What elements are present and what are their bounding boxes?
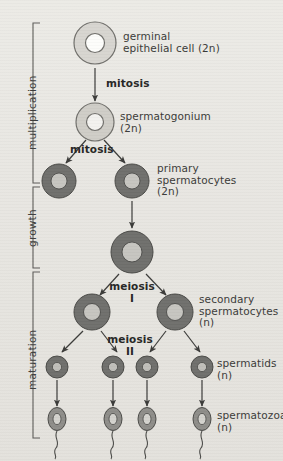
label-meiosis-1: meiosis I [106, 281, 158, 304]
label-germinal-epithelial-cell: germinal epithelial cell (2n) [123, 31, 220, 54]
label-primary-spermatocytes: primary spermatocytes (2n) [157, 163, 236, 198]
label-spermatogonium: spermatogonium (2n) [120, 111, 211, 134]
cell-spermatozoon-4 [193, 408, 211, 460]
cell-spermatozoon-3 [138, 408, 156, 460]
phase-label-multiplication: multiplication [26, 75, 38, 150]
label-mitosis-1: mitosis [106, 78, 150, 90]
cell-spermatogonium [76, 103, 114, 141]
label-mitosis-2: mitosis [70, 144, 114, 156]
phase-label-maturation: maturation [26, 330, 38, 390]
cell-primary-spermatocyte-left [42, 164, 76, 198]
cell-secondary-spermatocyte-right [157, 294, 193, 330]
label-secondary-spermatocytes: secondary spermatocytes (n) [199, 294, 278, 329]
label-meiosis-2: meiosis II [104, 334, 156, 357]
spermatogenesis-diagram [0, 0, 283, 461]
cell-germinal-epithelial [74, 22, 116, 64]
cell-spermatid-1 [46, 356, 68, 378]
cell-primary-spermatocyte-right [115, 164, 149, 198]
label-spermatozoa: spermatozoa (n) [217, 410, 283, 433]
figure-canvas: multiplication growth maturation germina… [0, 0, 283, 461]
cell-spermatozoon-1 [48, 408, 66, 460]
arrow-meiosis-2-d [184, 331, 200, 352]
cell-secondary-spermatocyte-left [74, 294, 110, 330]
cell-spermatozoon-2 [104, 408, 122, 460]
label-spermatids: spermatids (n) [217, 358, 277, 381]
cell-spermatid-2 [102, 356, 124, 378]
arrow-meiosis-2-a [62, 331, 83, 352]
phase-label-growth: growth [26, 209, 38, 247]
cell-spermatid-4 [191, 356, 213, 378]
cell-spermatid-3 [136, 356, 158, 378]
cell-primary-spermatocyte-grown [111, 231, 153, 273]
